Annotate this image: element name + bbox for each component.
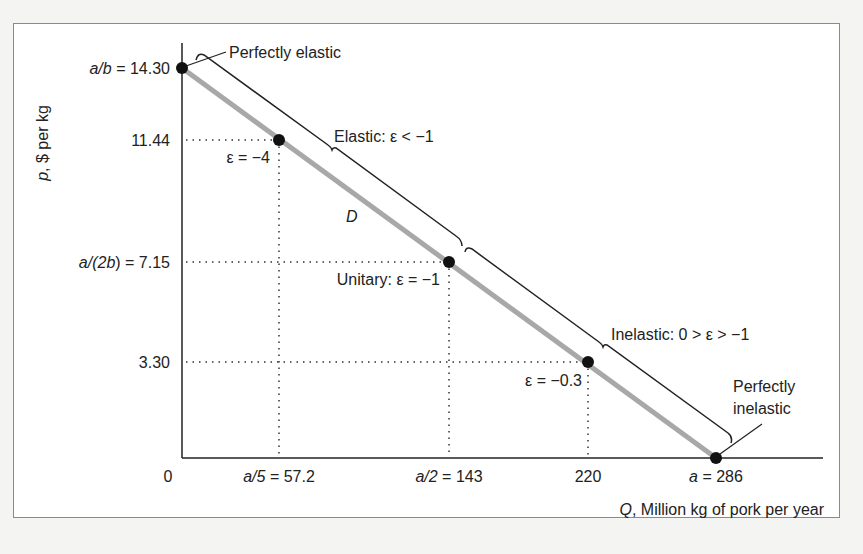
- inelastic-bracket: [465, 248, 732, 443]
- y-tick-14-30: a/b = 14.30: [89, 60, 170, 77]
- point-zero-price: [710, 452, 722, 464]
- perfectly-inelastic-label-line1: Perfectly: [733, 378, 795, 395]
- point-unitary: [443, 256, 455, 268]
- guide-lines: [186, 140, 588, 456]
- perfectly-inelastic-label-line2: inelastic: [733, 400, 791, 417]
- elasticity-minus-4-label: ε = −4: [226, 149, 270, 166]
- y-axis-label: p, $ per kg: [34, 105, 51, 182]
- elastic-region-label: Elastic: ε < −1: [334, 128, 434, 145]
- demand-curve-label: D: [346, 208, 358, 225]
- point-inelastic: [582, 356, 594, 368]
- perfectly-elastic-leader: [186, 52, 226, 66]
- elasticity-minus-0-3-label: ε = −0.3: [525, 372, 582, 389]
- x-tick-220: 220: [575, 468, 602, 485]
- perfectly-inelastic-leader: [720, 424, 762, 454]
- y-tick-7-15: a/(2b) = 7.15: [79, 254, 170, 271]
- point-elastic: [273, 134, 285, 146]
- y-tick-11-44: 11.44: [131, 132, 170, 149]
- point-choke-price: [176, 62, 188, 74]
- inelastic-region-label: Inelastic: 0 > ε > −1: [611, 326, 749, 343]
- x-tick-143: a/2 = 143: [415, 468, 482, 485]
- x-axis-label: Q, Million kg of pork per year: [619, 501, 824, 518]
- x-tick-57-2: a/5 = 57.2: [243, 468, 315, 485]
- unitary-label: Unitary: ε = −1: [337, 271, 440, 288]
- perfectly-elastic-label: Perfectly elastic: [229, 44, 341, 61]
- y-tick-3-30: 3.30: [139, 354, 170, 371]
- x-tick-286: a = 286: [689, 468, 743, 485]
- demand-elasticity-chart: p, $ per kg a/b = 14.30 11.44 a/(2b) = 7…: [0, 0, 863, 554]
- x-tick-0: 0: [164, 468, 173, 485]
